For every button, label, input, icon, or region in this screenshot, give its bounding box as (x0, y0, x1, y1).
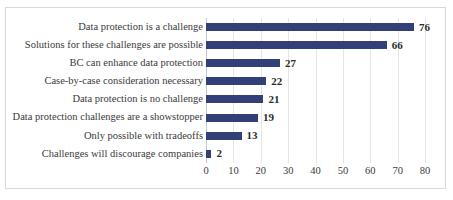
category-label: Case-by-case consideration necessary (8, 72, 203, 90)
bar-value-label: 21 (268, 94, 279, 105)
bar (206, 41, 387, 49)
x-tick-label: 70 (392, 164, 403, 178)
bar-row: 2 (206, 145, 453, 163)
bar (206, 114, 258, 122)
category-label: Solutions for these challenges are possi… (8, 36, 203, 54)
bar-value-label: 22 (271, 76, 282, 87)
bar (206, 59, 280, 67)
category-label: Data protection is no challenge (8, 90, 203, 108)
category-axis-labels: Data protection is a challengeSolutions … (8, 18, 203, 163)
bar-row: 27 (206, 54, 453, 72)
bar-row: 76 (206, 18, 453, 36)
x-tick-label: 0 (203, 164, 208, 178)
category-label: Challenges will discourage companies (8, 145, 203, 163)
bar-value-label: 27 (285, 58, 296, 69)
bar-row: 13 (206, 127, 453, 145)
category-label: Data protection is a challenge (8, 18, 203, 36)
x-tick-label: 20 (256, 164, 267, 178)
x-tick-label: 30 (283, 164, 294, 178)
bar-row: 66 (206, 36, 453, 54)
bar (206, 95, 263, 103)
bar-row: 22 (206, 72, 453, 90)
bar (206, 23, 414, 31)
bar-value-label: 76 (419, 22, 430, 33)
bar-value-label: 13 (247, 130, 258, 141)
x-tick-label: 50 (338, 164, 349, 178)
category-label: BC can enhance data protection (8, 54, 203, 72)
bar (206, 150, 211, 158)
x-tick-label: 60 (365, 164, 376, 178)
x-axis-tick-labels: 01020304050607080 (206, 164, 425, 180)
bar (206, 132, 242, 140)
bar-value-label: 2 (216, 148, 222, 159)
x-tick-label: 40 (310, 164, 321, 178)
x-tick-label: 80 (420, 164, 431, 178)
bar-value-label: 66 (392, 40, 403, 51)
bar-chart-figure: Data protection is a challengeSolutions … (0, 0, 453, 200)
bar-series: 766627222119132 (206, 18, 453, 163)
bar (206, 77, 266, 85)
bar-value-label: 19 (263, 112, 274, 123)
category-label: Only possible with tradeoffs (8, 127, 203, 145)
bar-row: 19 (206, 108, 453, 126)
bar-row: 21 (206, 90, 453, 108)
category-label: Data protection challenges are a showsto… (8, 108, 203, 126)
x-tick-label: 10 (228, 164, 239, 178)
